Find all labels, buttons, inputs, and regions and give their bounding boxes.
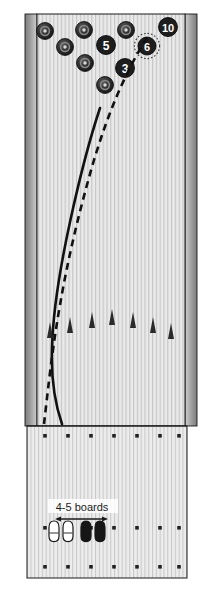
pin-2 bbox=[77, 55, 94, 72]
pin-10: 10 bbox=[159, 18, 178, 37]
pin-9 bbox=[118, 22, 135, 39]
boards-label: 4-5 boards bbox=[56, 501, 109, 513]
pin-4 bbox=[57, 39, 74, 56]
lane-surface bbox=[37, 14, 185, 426]
pin-7 bbox=[37, 23, 54, 40]
pin-5: 5 bbox=[97, 36, 116, 55]
pin-5-label: 5 bbox=[103, 39, 110, 53]
pin-3: 3 bbox=[116, 59, 135, 78]
shoe-right-moved bbox=[95, 521, 105, 542]
shoe-left-moved bbox=[81, 521, 91, 542]
shoe-right-start bbox=[63, 521, 73, 542]
pin-10-label: 10 bbox=[162, 22, 174, 34]
gutter-left bbox=[25, 14, 37, 426]
lane-diagram-canvas: 10 5 6 bbox=[0, 0, 207, 594]
pin-8 bbox=[76, 22, 93, 39]
shoe-left-start bbox=[49, 521, 59, 542]
bowling-lane-diagram: 10 5 6 bbox=[0, 0, 207, 594]
gutter-right bbox=[185, 14, 197, 426]
pin-1 bbox=[97, 77, 114, 94]
